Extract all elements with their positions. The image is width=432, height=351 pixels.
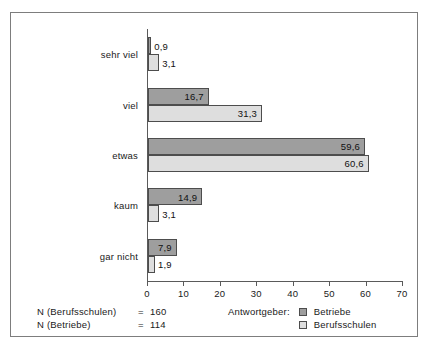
x-tick: [293, 281, 294, 286]
category-group: kaum14,93,1: [147, 180, 403, 230]
bar-value-label: 0,9: [154, 40, 168, 51]
category-label: sehr viel: [101, 49, 138, 60]
category-group: viel16,731,3: [147, 79, 403, 129]
x-tick-label: 40: [273, 288, 313, 299]
bar-row: 60,6: [148, 155, 404, 172]
bar-value-label: 59,6: [341, 141, 360, 152]
legend-swatch-icon: [299, 308, 307, 316]
bar-betriebe: 14,9: [148, 188, 202, 205]
bar-row: 31,3: [148, 105, 404, 122]
category-group: gar nicht7,91,9: [147, 231, 403, 281]
legend-title: Antwortgeber:: [228, 305, 290, 317]
category-label: viel: [123, 99, 138, 110]
bar-value-label: 60,6: [344, 158, 363, 169]
bar-betriebe: 16,7: [148, 88, 209, 105]
x-tick-label: 30: [236, 288, 276, 299]
sample-size-notes: N (Berufsschulen)=160N (Betriebe)=114: [37, 305, 166, 331]
legend-swatch-icon: [299, 321, 307, 329]
bar-berufsschulen: 31,3: [148, 105, 262, 122]
bar-row: 59,6: [148, 138, 404, 155]
bar-row: 7,9: [148, 239, 404, 256]
chart-legend: Antwortgeber: BetriebeBerufsschulen: [228, 305, 377, 331]
bar-berufsschulen: 3,1: [148, 54, 159, 71]
x-tick-label: 70: [382, 288, 422, 299]
x-tick-label: 10: [163, 288, 203, 299]
note-value: 160: [150, 305, 166, 318]
legend-item-label: Betriebe: [314, 306, 351, 317]
legend-item: Berufsschulen: [299, 318, 377, 331]
bar-berufsschulen: 3,1: [148, 205, 159, 222]
bar-row: 3,1: [148, 54, 404, 71]
bar-value-label: 3,1: [162, 208, 176, 219]
category-label: gar nicht: [100, 250, 138, 261]
note-equals: =: [138, 305, 150, 318]
bar-value-label: 16,7: [185, 91, 204, 102]
bar-value-label: 1,9: [158, 259, 172, 270]
note-line: N (Berufsschulen)=160: [37, 305, 166, 318]
x-tick-label: 20: [200, 288, 240, 299]
bar-value-label: 14,9: [178, 191, 197, 202]
x-tick: [183, 281, 184, 286]
category-group: sehr viel0,93,1: [147, 29, 403, 79]
bar-row: 16,7: [148, 88, 404, 105]
bar-row: 1,9: [148, 256, 404, 273]
category-label: kaum: [114, 200, 138, 211]
category-label: etwas: [112, 149, 138, 160]
bar-value-label: 3,1: [162, 57, 176, 68]
bar-value-label: 31,3: [238, 108, 257, 119]
bar-value-label: 7,9: [158, 242, 172, 253]
chart-figure: 010203040506070 sehr viel0,93,1viel16,73…: [10, 12, 418, 337]
x-tick-label: 0: [127, 288, 167, 299]
x-tick: [329, 281, 330, 286]
bar-row: 14,9: [148, 188, 404, 205]
bar-row: 0,9: [148, 37, 404, 54]
x-tick: [366, 281, 367, 286]
x-tick-label: 60: [346, 288, 386, 299]
bar-betriebe: 0,9: [148, 37, 151, 54]
x-tick: [256, 281, 257, 286]
note-name: N (Berufsschulen): [37, 305, 138, 318]
bar-berufsschulen: 60,6: [148, 155, 369, 172]
bar-betriebe: 59,6: [148, 138, 365, 155]
x-tick: [402, 281, 403, 286]
note-line: N (Betriebe)=114: [37, 318, 166, 331]
plot-area: 010203040506070 sehr viel0,93,1viel16,73…: [147, 29, 403, 281]
bar-betriebe: 7,9: [148, 239, 177, 256]
note-value: 114: [150, 318, 166, 331]
note-name: N (Betriebe): [37, 318, 138, 331]
x-tick: [147, 281, 148, 286]
legend-items: BetriebeBerufsschulen: [299, 305, 377, 331]
note-equals: =: [138, 318, 150, 331]
bar-berufsschulen: 1,9: [148, 256, 155, 273]
bar-row: 3,1: [148, 205, 404, 222]
x-tick: [220, 281, 221, 286]
category-group: etwas59,660,6: [147, 130, 403, 180]
legend-item-label: Berufsschulen: [314, 319, 377, 330]
x-tick-label: 50: [309, 288, 349, 299]
legend-item: Betriebe: [299, 305, 377, 318]
